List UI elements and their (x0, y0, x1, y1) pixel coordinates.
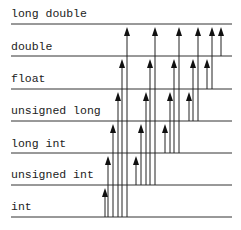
arrowhead-icon (124, 27, 130, 36)
arrowhead-icon (186, 92, 192, 101)
arrowhead-icon (176, 27, 182, 36)
arrowhead-icon (105, 156, 111, 165)
arrowhead-icon (110, 124, 116, 133)
arrow (167, 92, 173, 153)
arrow (195, 27, 201, 121)
arrow (176, 27, 182, 153)
arrow (110, 124, 116, 217)
arrowhead-icon (138, 124, 144, 133)
arrowhead-icon (171, 59, 177, 68)
arrow (105, 156, 111, 217)
arrow (162, 124, 168, 153)
arrowhead-icon (190, 59, 196, 68)
arrow (190, 59, 196, 121)
arrow (204, 59, 210, 89)
arrowhead-icon (204, 59, 210, 68)
arrowhead-icon (162, 124, 168, 133)
arrowhead-icon (167, 92, 173, 101)
arrow (115, 92, 121, 217)
type-promotion-diagram: long double double float unsigned long l… (0, 0, 241, 230)
arrowhead-icon (102, 188, 108, 197)
arrows-canvas (0, 0, 241, 230)
arrowhead-icon (133, 156, 139, 165)
arrow (218, 27, 224, 56)
arrow (209, 27, 215, 89)
arrow (186, 92, 192, 121)
arrowhead-icon (209, 27, 215, 36)
arrowhead-icon (195, 27, 201, 36)
arrowhead-icon (143, 92, 149, 101)
arrowhead-icon (218, 27, 224, 36)
arrow (133, 156, 139, 185)
arrow (102, 188, 108, 217)
arrow (152, 27, 158, 185)
arrow (171, 59, 177, 153)
arrow (147, 59, 153, 185)
arrow (143, 92, 149, 185)
arrow (138, 124, 144, 185)
arrowhead-icon (147, 59, 153, 68)
arrowhead-icon (152, 27, 158, 36)
arrowhead-icon (119, 59, 125, 68)
arrowhead-icon (115, 92, 121, 101)
arrow (119, 59, 125, 217)
